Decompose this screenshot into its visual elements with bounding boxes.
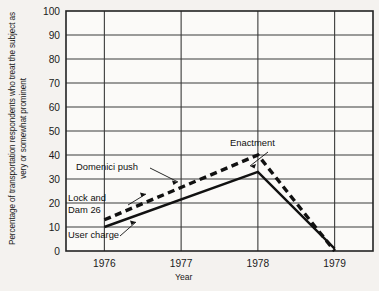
annotation-lock-and-dam-26: Lock and Dam 26 xyxy=(68,192,106,215)
annotation-lock-line2: Dam 26 xyxy=(68,204,101,215)
plot-area xyxy=(0,0,379,291)
annotation-enactment: Enactment xyxy=(230,137,275,149)
annotation-domenici-push: Domenici push xyxy=(76,161,138,173)
annotation-lock-line1: Lock and xyxy=(68,192,106,203)
chart-container: Percentage of transportation respondents… xyxy=(0,0,379,291)
x-axis-tick: 1977 xyxy=(170,258,193,269)
x-axis-tick: 1978 xyxy=(247,258,270,269)
annotation-user-charge: User charge xyxy=(68,229,119,241)
x-axis-tick: 1979 xyxy=(323,258,346,269)
x-axis-tick: 1976 xyxy=(93,258,116,269)
